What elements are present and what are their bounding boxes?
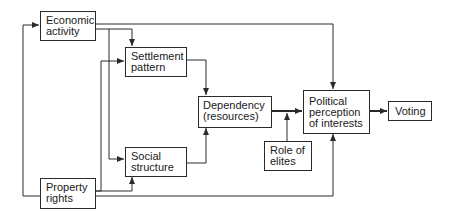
node-label: of interests (309, 118, 369, 129)
flow-diagram: Economic activity Property rights Settle… (0, 0, 453, 218)
edge-property-to-economic (23, 25, 40, 196)
node-label: (resources) (203, 111, 271, 122)
node-settlement-pattern: Settlement pattern (125, 47, 187, 77)
node-label: Voting (395, 106, 431, 117)
node-label: pattern (131, 62, 186, 73)
node-political-perception: Political perception of interests (303, 90, 370, 134)
edge-settlement-to-dependency (186, 60, 206, 95)
edge-economic-to-social (109, 29, 124, 159)
node-role-of-elites: Role of elites (264, 141, 312, 171)
node-label: structure (131, 162, 186, 173)
node-label: activity (46, 26, 95, 37)
edge-economic-to-settlement (95, 29, 132, 46)
node-label: elites (270, 156, 311, 167)
node-social-structure: Social structure (125, 147, 187, 177)
node-dependency: Dependency (resources) (198, 96, 272, 128)
node-voting: Voting (388, 101, 432, 121)
node-label: rights (46, 193, 95, 204)
node-economic-activity: Economic activity (40, 11, 96, 41)
edge-social-to-dependency (186, 128, 206, 163)
node-property-rights: Property rights (40, 178, 96, 209)
